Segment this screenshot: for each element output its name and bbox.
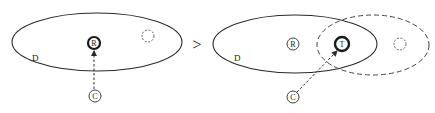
right-panel: D R T C — [213, 15, 429, 103]
right-node-r: R — [287, 38, 299, 50]
svg-text:T: T — [340, 40, 345, 49]
left-node-r: R — [88, 37, 100, 49]
relation-symbol: > — [192, 36, 201, 53]
svg-text:C: C — [92, 92, 97, 101]
right-dashed-region-ellipse — [317, 15, 429, 75]
right-placeholder-dashed-circle — [394, 38, 406, 50]
right-node-c: C — [287, 91, 299, 103]
svg-text:R: R — [91, 39, 97, 48]
diagram-canvas: D R C > D R T C — [0, 0, 435, 113]
svg-text:C: C — [290, 93, 295, 102]
right-region-d-label: D — [234, 53, 241, 63]
left-node-c: C — [89, 90, 101, 102]
left-region-d-label: D — [32, 53, 39, 63]
right-node-t: T — [335, 37, 349, 51]
left-panel: D R C — [12, 13, 182, 102]
right-dashed-arrow-c-to-t — [297, 51, 337, 92]
left-placeholder-dashed-circle — [142, 30, 154, 42]
svg-text:R: R — [290, 40, 296, 49]
